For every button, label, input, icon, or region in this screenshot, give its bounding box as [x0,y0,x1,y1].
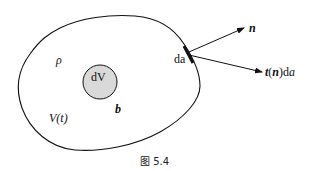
figure-canvas: ρ dV V(t) b da n t(n)da 图 5.4 [0,0,310,171]
area-element-mark [184,46,193,63]
volume-label: V(t) [49,112,68,124]
diagram-graphics [0,0,310,171]
area-element-label: da [174,53,185,65]
volume-element-label: dV [91,71,106,83]
traction-paren-close: )d [279,65,289,79]
body-force-label: b [115,103,121,115]
traction-label: t(n)da [265,66,295,78]
density-label: ρ [56,54,62,66]
traction-a: a [289,65,295,79]
normal-arrow [189,28,244,52]
normal-label: n [249,22,256,34]
traction-arrow [189,55,262,72]
figure-caption: 图 5.4 [140,157,169,167]
